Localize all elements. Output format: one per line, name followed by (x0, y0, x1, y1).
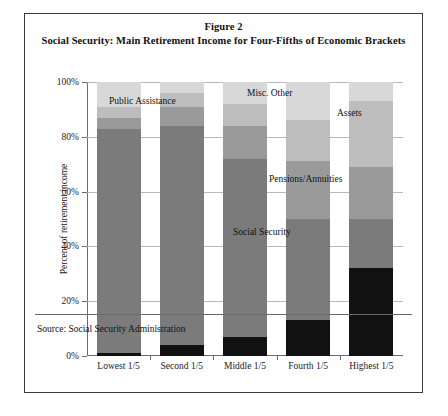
bar-segment-pensions-annuities (160, 107, 204, 126)
bar-segment-wages (97, 353, 141, 356)
x-axis-tick-mark (150, 356, 151, 360)
bar-segment-misc-other (286, 82, 330, 120)
source-note: Source: Social Security Administration (37, 324, 186, 334)
bar-segment-misc-other (160, 82, 204, 93)
bar-segment-social-security (160, 126, 204, 345)
y-axis-tick-label: 80% (61, 132, 83, 142)
source-divider (35, 314, 412, 315)
y-axis-tick-label: 40% (61, 241, 83, 251)
figure-container: Figure 2 Social Security: Main Retiremen… (24, 13, 423, 393)
x-axis-tick-mark (213, 356, 214, 360)
x-axis-tick-mark (340, 356, 341, 360)
bar-segment-assets (286, 120, 330, 161)
bar-segment-wages (349, 268, 393, 356)
bar-segment-assets (97, 107, 141, 118)
annotation-wages: Wages (355, 320, 380, 330)
bar-segment-pensions-annuities (97, 118, 141, 129)
bar-segment-social-security (349, 219, 393, 268)
bar-segment-pensions-annuities (286, 161, 330, 219)
y-axis-tick-label: 20% (61, 296, 83, 306)
figure-title: Figure 2 Social Security: Main Retiremen… (25, 20, 422, 48)
annotation-social-security: Social Security (233, 227, 291, 237)
annotation-assets: Assets (337, 108, 362, 118)
y-axis-tick-label: 60% (61, 187, 83, 197)
bar-segment-wages (286, 320, 330, 356)
x-axis-tick-mark (277, 356, 278, 360)
y-axis-tick-label: 0% (66, 351, 84, 361)
bar-segment-social-security (223, 159, 267, 337)
y-axis-title-text: Percent of retirement income (59, 164, 69, 275)
bar-segment-wages (160, 345, 204, 356)
bar-segment-social-security (286, 219, 330, 320)
x-axis-tick-label: Highest 1/5 (334, 361, 408, 371)
annotation-pensions-annuities: Pensions/Annuities (269, 174, 342, 184)
bar-segment-pensions-annuities (349, 167, 393, 219)
bar-segment-social-security (97, 129, 141, 354)
bar-segment-pensions-annuities (223, 126, 267, 159)
bar-segment-assets (223, 104, 267, 126)
figure-title-line1: Figure 2 (25, 20, 422, 34)
annotation-public-assistance: Public Assistance (109, 96, 176, 106)
bar-segment-wages (223, 337, 267, 356)
y-axis-tick-label: 100% (57, 77, 84, 87)
bar-segment-misc-other (349, 82, 393, 101)
figure-title-line2: Social Security: Main Retirement Income … (25, 34, 422, 48)
annotation-misc-other: Misc. Other (247, 88, 292, 98)
